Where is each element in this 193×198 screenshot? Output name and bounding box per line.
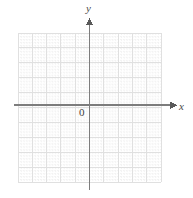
y-axis-arrow-icon (86, 18, 93, 26)
coordinate-grid-svg (0, 0, 193, 198)
x-axis-label: x (179, 101, 184, 112)
x-axis-arrow-icon (170, 102, 178, 109)
y-axis-label: y (86, 3, 91, 14)
coordinate-plane-figure: y x 0 (0, 0, 193, 198)
origin-label: 0 (79, 107, 85, 118)
